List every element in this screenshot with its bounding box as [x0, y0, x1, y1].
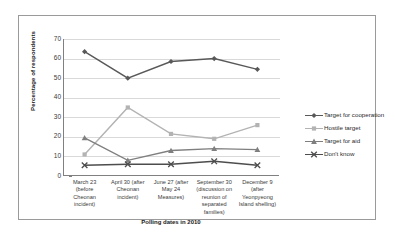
- legend-item-label: Hostile target: [324, 125, 360, 131]
- data-point-marker: [255, 123, 259, 127]
- x-axis-title: Polling dates in 2010: [63, 219, 279, 225]
- y-axis-tick-label: 0: [31, 173, 61, 180]
- x-axis-tick-label-line: Cheonan: [73, 194, 96, 200]
- x-axis-tick-label-line: Island shelling): [239, 201, 276, 207]
- x-axis-tick-label-line: April 30 (after: [111, 179, 145, 185]
- series-line: [85, 52, 258, 78]
- y-axis-tick-label: 20: [31, 133, 61, 140]
- x-axis-tick-labels: March 23(beforeCheonanincident)April 30 …: [63, 179, 279, 216]
- x-axis-tick-label-line: families): [204, 209, 225, 215]
- x-axis-tick-label-line: incident): [74, 201, 95, 207]
- chart-legend: Target for cooperationHostile targetTarg…: [305, 109, 393, 161]
- legend-item[interactable]: Don't know: [305, 148, 393, 161]
- x-axis-tick-label-line: reunion of: [202, 194, 227, 200]
- legend-item-label: Don't know: [324, 151, 354, 157]
- data-point-marker: [312, 126, 316, 130]
- y-axis-tick-label: 70: [31, 36, 61, 43]
- series-line: [85, 108, 258, 155]
- chart-figure-frame: Percentage of respondents 01020304050607…: [18, 15, 376, 220]
- data-point-marker: [83, 152, 87, 156]
- y-axis-ticks: 010203040506070: [27, 39, 61, 176]
- data-point-marker: [212, 137, 216, 141]
- y-axis-tick-label: 30: [31, 114, 61, 121]
- legend-marker-icon: [305, 137, 323, 146]
- x-axis-tick-label-line: March 23: [73, 179, 96, 185]
- legend-key-icon: [305, 150, 323, 159]
- x-axis-tick-label: June 27 (afterMay 24Measures): [149, 179, 192, 216]
- x-axis-tick-label: April 30 (afterCheonanincident): [106, 179, 149, 216]
- data-point-marker: [168, 59, 173, 64]
- x-axis-tick-label-line: Cheonan: [116, 186, 139, 192]
- data-point-marker: [126, 105, 130, 109]
- legend-item-label: Target for aid: [324, 138, 360, 144]
- chart-series-layer: [63, 39, 279, 176]
- chart-screenshot: Percentage of respondents 01020304050607…: [0, 0, 395, 244]
- data-point-marker: [311, 139, 317, 144]
- x-axis-tick-label-line: Measures): [158, 194, 184, 200]
- data-point-marker: [212, 56, 217, 61]
- data-point-marker: [311, 113, 316, 118]
- legend-item[interactable]: Hostile target: [305, 122, 393, 135]
- legend-key-icon: [305, 124, 323, 133]
- x-axis-tick-label-line: incident): [117, 194, 138, 200]
- y-axis-tick-label: 10: [31, 153, 61, 160]
- x-axis-tick-label-line: separated: [202, 201, 227, 207]
- x-axis-tick-label: March 23(beforeCheonanincident): [63, 179, 106, 216]
- legend-key-icon: [305, 137, 323, 146]
- x-axis-tick-label-line: (discussion on: [196, 186, 232, 192]
- x-axis-tick-label: December 9(afterYeonpyeongIsland shellin…: [236, 179, 279, 216]
- x-axis-tick-label-line: September 30: [197, 179, 232, 185]
- data-point-marker: [311, 152, 317, 158]
- legend-marker-icon: [305, 150, 323, 159]
- x-axis-tick-label-line: (before: [76, 186, 94, 192]
- x-axis-tick-label-line: (after: [251, 186, 264, 192]
- data-point-marker: [82, 135, 88, 140]
- legend-marker-icon: [305, 111, 323, 120]
- data-point-marker: [255, 67, 260, 72]
- legend-item-label: Target for cooperation: [324, 112, 384, 118]
- legend-marker-icon: [305, 124, 323, 133]
- x-axis-tick-label-line: June 27 (after: [154, 179, 189, 185]
- x-axis-tick-label: September 30(discussion onreunion ofsepa…: [193, 179, 236, 216]
- legend-item[interactable]: Target for cooperation: [305, 109, 393, 122]
- x-axis-tick-label-line: Yeonpyeong: [242, 194, 273, 200]
- x-axis-tick-label-line: May 24: [162, 186, 180, 192]
- y-axis-tick-label: 60: [31, 55, 61, 62]
- legend-key-icon: [305, 111, 323, 120]
- data-point-marker: [169, 132, 173, 136]
- x-axis-tick-label-line: December 9: [242, 179, 272, 185]
- legend-item[interactable]: Target for aid: [305, 135, 393, 148]
- y-axis-tick-mark: [69, 176, 72, 177]
- y-axis-tick-label: 40: [31, 94, 61, 101]
- y-axis-tick-label: 50: [31, 75, 61, 82]
